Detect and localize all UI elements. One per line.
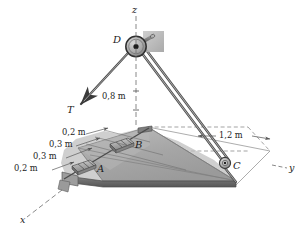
dimension-offset-2: 0,3 m xyxy=(49,140,73,148)
point-B-label: B xyxy=(135,140,142,150)
force-T-label: T xyxy=(67,105,74,115)
point-A-label: A xyxy=(97,164,104,174)
point-C-label: C xyxy=(233,161,241,171)
axis-y-label: y xyxy=(289,163,294,173)
dimension-offset-3: 0,3 m xyxy=(33,152,57,160)
dimension-height-label: 0,8 m xyxy=(102,92,126,100)
dimension-offset-1: 0,2 m xyxy=(62,128,86,136)
axis-x-label: x xyxy=(20,215,25,225)
point-D-label: D xyxy=(113,35,121,45)
axis-x xyxy=(27,190,62,217)
dimension-span-label: 1,2 m xyxy=(219,131,243,139)
axis-y xyxy=(272,165,287,168)
dimension-offset-4: 0,2 m xyxy=(14,164,38,172)
statics-diagram xyxy=(0,0,302,234)
ring-C xyxy=(219,157,230,168)
figure-canvas: z y x D B A C T 0,8 m 1,2 m 0,2 m 0,3 m … xyxy=(0,0,302,234)
axis-z-label: z xyxy=(132,5,137,15)
